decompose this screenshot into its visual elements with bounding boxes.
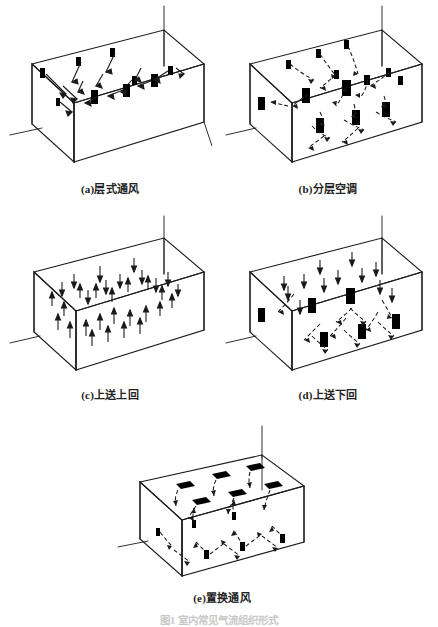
box-ceiling-b bbox=[250, 30, 422, 103]
panel-stratified-air-conditioning bbox=[224, 2, 432, 178]
axis-left-b bbox=[226, 128, 256, 135]
flow-arrows-c bbox=[50, 258, 181, 346]
box-ceiling-e bbox=[140, 455, 304, 520]
caption-panel-e: (e)置换通风 bbox=[116, 589, 328, 605]
vent-group-b bbox=[258, 40, 403, 133]
caption-panel-b: (b)分层空调 bbox=[224, 180, 432, 196]
axis-left-d bbox=[226, 336, 256, 343]
figure-bottom-caption: 图1 室内常见气流组织形式 bbox=[0, 612, 438, 627]
diagram-c bbox=[8, 212, 212, 384]
box-left-wall-e bbox=[140, 482, 182, 576]
axis-right-a bbox=[204, 122, 212, 146]
caption-panel-a: (a)层式通风 bbox=[8, 180, 212, 196]
diagram-e bbox=[116, 424, 328, 588]
panel-displacement-ventilation bbox=[116, 424, 328, 588]
box-left-wall-b bbox=[250, 64, 292, 162]
box-ceiling-d bbox=[250, 238, 422, 311]
flow-arrowheads-d bbox=[278, 310, 394, 354]
panel-top-supply-top-return bbox=[8, 212, 212, 384]
box-left-wall-c bbox=[34, 272, 76, 370]
caption-panel-c: (c)上送上回 bbox=[8, 386, 212, 402]
flow-arrows-d bbox=[282, 252, 395, 314]
diagram-d bbox=[224, 212, 432, 384]
panel-stratified-ventilation bbox=[8, 2, 212, 178]
diagram-b bbox=[224, 2, 432, 178]
caption-panel-d: (d)上送下回 bbox=[224, 386, 432, 402]
vent-group-d bbox=[258, 288, 400, 347]
box-floor-d bbox=[292, 272, 422, 370]
flow-arrowheads-b bbox=[270, 71, 396, 151]
diagram-a bbox=[8, 2, 212, 178]
box-ceiling-c bbox=[34, 238, 204, 311]
floor-vent-group-e bbox=[156, 512, 285, 559]
panel-top-supply-bottom-return bbox=[224, 212, 432, 384]
flow-arrows-a bbox=[46, 53, 184, 116]
axis-left-c bbox=[10, 336, 40, 343]
